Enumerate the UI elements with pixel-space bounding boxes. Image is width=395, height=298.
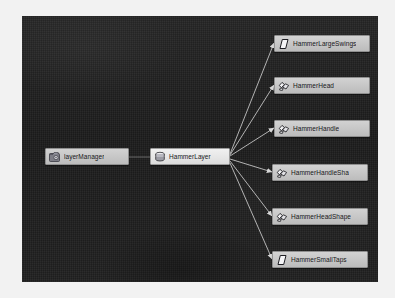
edge-to-hammerheadshape [230, 161, 272, 216]
edge-to-hammerlargeswings [230, 43, 274, 154]
node-label: HammerSmallTaps [291, 255, 347, 264]
edge-to-hammerhandle [230, 128, 274, 156]
node-label: HammerHead [293, 81, 334, 90]
layer-manager-icon [49, 151, 61, 163]
node-hammersmalltaps[interactable]: HammerSmallTaps [272, 251, 368, 268]
graph-canvas[interactable]: layerManager HammerLayer HammerLargeSwin… [22, 16, 378, 282]
node-label: HammerHandle [293, 124, 339, 133]
parallelogram-icon [276, 254, 288, 266]
node-label: HammerLargeSwings [293, 39, 356, 48]
node-label: HammerHeadShape [291, 212, 351, 221]
node-label: layerManager [64, 152, 104, 161]
edge-to-hammersmalltaps [230, 163, 272, 259]
layer-stack-icon [154, 151, 166, 163]
polygon-shape-icon [278, 80, 290, 92]
edge-to-hammerhead [230, 85, 274, 155]
node-layermanager[interactable]: layerManager [45, 148, 129, 165]
node-label: HammerHandleSha [291, 168, 349, 177]
node-hammerhandle[interactable]: HammerHandle [274, 120, 370, 137]
hypergraph-window: layerManager HammerLayer HammerLargeSwin… [0, 0, 395, 298]
node-hammerheadshape[interactable]: HammerHeadShape [272, 208, 368, 225]
polygon-shape-icon [276, 167, 288, 179]
parallelogram-icon [278, 38, 290, 50]
node-label: HammerLayer [169, 152, 211, 161]
node-hammerlayer[interactable]: HammerLayer [150, 148, 230, 165]
node-hammerlargeswings[interactable]: HammerLargeSwings [274, 35, 370, 52]
polygon-shape-icon [278, 123, 290, 135]
node-hammerhead[interactable]: HammerHead [274, 77, 370, 94]
polygon-shape-icon [276, 211, 288, 223]
edge-to-hammerhandleshape [230, 159, 272, 172]
node-hammerhandleshape[interactable]: HammerHandleSha [272, 164, 368, 181]
